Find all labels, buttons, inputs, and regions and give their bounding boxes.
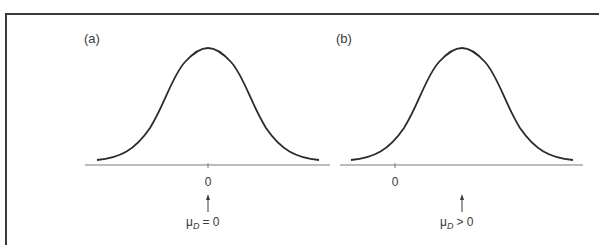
subscript-d: D <box>193 221 200 231</box>
panel-a-label: (a) <box>84 31 100 46</box>
panel-b-label: (b) <box>336 31 352 46</box>
panel-a-mean-arrow <box>206 194 210 212</box>
relation-text: > 0 <box>456 215 473 229</box>
panel-b: (b) 0 μD> 0 <box>336 31 583 231</box>
panel-b-mean-label: μD> 0 <box>440 215 474 231</box>
figure: (a) 0 μD= 0 (b) 0 <box>0 0 599 245</box>
panel-a-mean-label: μD= 0 <box>186 215 220 231</box>
panel-b-mean-arrow <box>460 194 464 212</box>
panel-a-zero-label: 0 <box>205 175 212 189</box>
subscript-d: D <box>447 221 454 231</box>
figure-frame <box>6 13 599 245</box>
relation-text: = 0 <box>202 215 219 229</box>
panel-b-zero-label: 0 <box>392 175 399 189</box>
panel-b-normal-curve <box>351 48 573 160</box>
panel-a-normal-curve <box>97 48 319 160</box>
panel-a: (a) 0 μD= 0 <box>84 31 330 231</box>
